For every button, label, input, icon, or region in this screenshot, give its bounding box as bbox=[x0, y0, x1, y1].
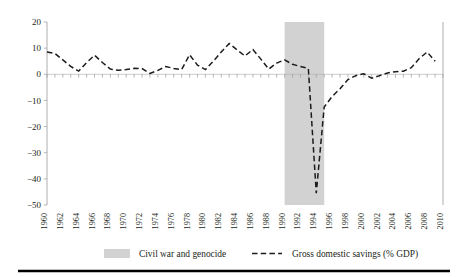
x-tick-label: 2006 bbox=[404, 213, 413, 229]
savings-series-line bbox=[47, 43, 435, 193]
y-axis-tick-labels: 20100−10−20−30−40−50 bbox=[27, 17, 42, 210]
y-tick-label: −10 bbox=[27, 96, 42, 106]
x-tick-label: 1960 bbox=[40, 213, 49, 229]
x-tick-label: 1994 bbox=[309, 213, 318, 229]
gross-domestic-savings-line-chart: 20100−10−20−30−40−50 1960196219641966196… bbox=[0, 0, 468, 277]
x-tick-label: 1968 bbox=[103, 213, 112, 229]
y-tick-label: 10 bbox=[32, 43, 42, 53]
x-tick-label: 2010 bbox=[436, 213, 445, 229]
x-tick-label: 1992 bbox=[293, 213, 302, 229]
x-tick-label: 1984 bbox=[230, 213, 239, 229]
x-tick-label: 1970 bbox=[119, 213, 128, 229]
y-tick-label: −30 bbox=[27, 148, 42, 158]
y-tick-label: 20 bbox=[32, 17, 42, 27]
x-tick-label: 2002 bbox=[373, 213, 382, 229]
legend-label-civil-war: Civil war and genocide bbox=[139, 249, 226, 259]
y-tick-label: −20 bbox=[27, 122, 42, 132]
x-axis-tick-labels: 1960196219641966196819701972197419761978… bbox=[40, 213, 445, 229]
x-tick-label: 2004 bbox=[388, 213, 397, 229]
x-tick-label: 1982 bbox=[214, 213, 223, 229]
y-tick-label: −50 bbox=[27, 200, 42, 210]
y-tick-label: 0 bbox=[37, 69, 42, 79]
x-tick-label: 2000 bbox=[357, 213, 366, 229]
x-tick-label: 1966 bbox=[88, 213, 97, 229]
x-tick-label: 1988 bbox=[262, 213, 271, 229]
x-tick-label: 1998 bbox=[341, 213, 350, 229]
x-tick-label: 1996 bbox=[325, 213, 334, 229]
x-tick-label: 1986 bbox=[246, 213, 255, 229]
x-tick-label: 1972 bbox=[135, 213, 144, 229]
x-tick-label: 1962 bbox=[56, 213, 65, 229]
x-tick-label: 1980 bbox=[198, 213, 207, 229]
chart-figure: 20100−10−20−30−40−50 1960196219641966196… bbox=[0, 0, 468, 277]
x-tick-label: 1978 bbox=[183, 213, 192, 229]
y-tick-label: −40 bbox=[27, 174, 42, 184]
x-axis-tick-marks bbox=[47, 74, 443, 77]
x-tick-label: 1990 bbox=[278, 213, 287, 229]
chart-legend: Civil war and genocide Gross domestic sa… bbox=[104, 249, 418, 260]
x-tick-label: 1964 bbox=[72, 213, 81, 229]
y-axis bbox=[44, 22, 47, 205]
series-path-0 bbox=[47, 43, 435, 193]
x-tick-label: 1976 bbox=[167, 213, 176, 229]
legend-label-savings: Gross domestic savings (% GDP) bbox=[292, 249, 418, 260]
legend-swatch-civil-war bbox=[104, 249, 130, 258]
x-tick-label: 2008 bbox=[420, 213, 429, 229]
x-tick-label: 1974 bbox=[151, 213, 160, 229]
